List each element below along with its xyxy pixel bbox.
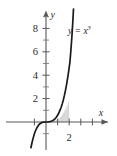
cubic-function-figure: 8 6 4 2 2 y x y = x3 bbox=[0, 0, 117, 156]
y-tick-label-4: 4 bbox=[33, 70, 39, 81]
y-tick-label-2: 2 bbox=[33, 93, 38, 104]
y-axis-label: y bbox=[50, 9, 56, 20]
curve-equation-exponent: 3 bbox=[87, 24, 92, 31]
x-tick-label-2: 2 bbox=[67, 132, 72, 143]
graph-canvas: 8 6 4 2 2 y x y = x3 bbox=[0, 0, 117, 156]
curve-equation-base: y = x bbox=[67, 26, 88, 36]
x-axis-label: x bbox=[98, 107, 104, 118]
curve-equation-label: y = x3 bbox=[67, 24, 92, 35]
x-axis-arrow-icon bbox=[102, 119, 109, 124]
y-axis-arrow-icon bbox=[43, 11, 48, 18]
y-tick-label-8: 8 bbox=[33, 23, 38, 34]
y-tick-label-6: 6 bbox=[33, 46, 38, 57]
